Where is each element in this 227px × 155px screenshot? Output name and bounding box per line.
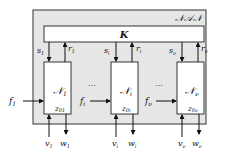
svg-text:w1: w1 <box>60 139 70 149</box>
ellipsis-2: ··· <box>155 81 163 90</box>
svg-text:vν: vν <box>178 139 186 149</box>
ellipsis-1: ··· <box>88 81 96 90</box>
controller-k-label: K <box>119 29 130 40</box>
nan-label: 𝒩𝒜𝒩 <box>175 13 205 23</box>
svg-text:wν: wν <box>192 139 202 149</box>
svg-text:rν: rν <box>201 44 208 54</box>
svg-text:vi: vi <box>112 139 119 149</box>
svg-text:f1: f1 <box>8 96 16 107</box>
svg-text:v1: v1 <box>45 139 53 149</box>
svg-text:z0i: z0i <box>121 105 131 113</box>
network-diagram: 𝒩𝒜𝒩 K 𝒩1 s1 r1 f1 z01 v1 w1 ··· 𝒩i si ri… <box>0 0 227 155</box>
svg-text:wi: wi <box>128 139 137 149</box>
svg-text:z0ν: z0ν <box>187 105 198 113</box>
svg-text:z01: z01 <box>54 105 65 113</box>
